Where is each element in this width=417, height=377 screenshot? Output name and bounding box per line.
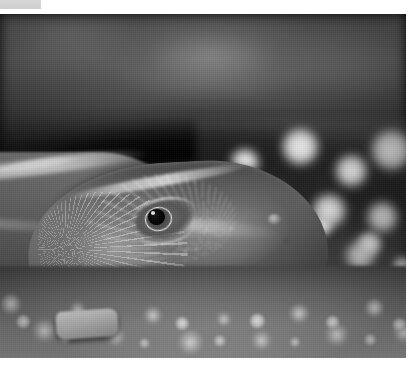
page-root [0, 0, 417, 377]
cropped-toolbar-strip [0, 0, 41, 9]
photograph-catfish-head [0, 14, 406, 358]
fish-nostril-nub [268, 214, 281, 224]
caption-bar [0, 358, 417, 377]
foreground-flat-pebble [55, 308, 119, 340]
